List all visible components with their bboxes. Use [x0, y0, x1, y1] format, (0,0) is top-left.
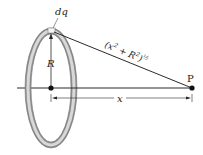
ring-charge-diagram: dq R P x (x2 + R2)½	[0, 0, 203, 155]
x-arrow-right-icon	[186, 97, 191, 100]
ring-center-point	[48, 85, 53, 90]
label-dq: dq	[55, 6, 68, 17]
label-point-p: P	[187, 73, 194, 84]
label-x: x	[117, 93, 123, 104]
label-radius: R	[46, 58, 55, 69]
x-arrow-left-icon	[52, 97, 57, 100]
dq-leader-line	[53, 18, 58, 28]
point-p	[189, 85, 194, 90]
